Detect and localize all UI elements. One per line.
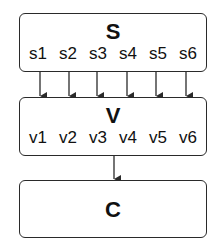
box-c-title: C [20, 197, 206, 223]
box-v-items: v1 v2 v3 v4 v5 v6 [20, 128, 206, 148]
item-v4: v4 [119, 128, 137, 148]
box-s: S s1 s2 s3 s4 s5 s6 [19, 13, 207, 72]
item-s3: s3 [89, 44, 107, 64]
item-s4: s4 [119, 44, 137, 64]
box-v-title: V [20, 103, 206, 129]
item-s1: s1 [29, 44, 47, 64]
item-v5: v5 [149, 128, 167, 148]
box-s-title: S [20, 19, 206, 45]
item-v1: v1 [29, 128, 47, 148]
item-s5: s5 [149, 44, 167, 64]
item-s6: s6 [179, 44, 197, 64]
box-s-items: s1 s2 s3 s4 s5 s6 [20, 44, 206, 64]
box-c: C [19, 180, 207, 238]
item-v6: v6 [179, 128, 197, 148]
item-s2: s2 [59, 44, 77, 64]
item-v3: v3 [89, 128, 107, 148]
item-v2: v2 [59, 128, 77, 148]
box-v: V v1 v2 v3 v4 v5 v6 [19, 97, 207, 156]
